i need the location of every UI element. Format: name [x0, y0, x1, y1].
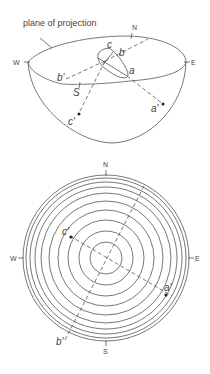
point-a-prime-marker — [162, 103, 165, 106]
point-c-prime-marker — [78, 113, 81, 116]
circle-4 — [58, 210, 154, 306]
point-c-prime-bottom-marker — [69, 235, 72, 238]
circle-6 — [41, 193, 171, 323]
circle-9 — [26, 178, 186, 338]
north-label: N — [132, 24, 137, 31]
point-b-prime-label: b' — [57, 72, 66, 83]
point-b-prime-bottom-label: b' — [56, 336, 65, 347]
west-label: W — [13, 59, 20, 66]
line-to-b-prime — [64, 61, 105, 80]
hemisphere-bowl — [28, 62, 186, 143]
east-label: E — [191, 59, 196, 66]
south-label: S — [73, 87, 80, 98]
point-a-label: a — [129, 65, 135, 76]
south-label-bottom: S — [103, 348, 108, 355]
c-a-diameter — [70, 236, 172, 296]
circle-7 — [35, 187, 177, 329]
caption-leader-line — [40, 38, 52, 48]
circle-5 — [49, 201, 163, 315]
north-tick — [131, 33, 132, 39]
cone-axis-c — [103, 52, 113, 65]
point-a-prime-bottom-marker — [164, 293, 167, 296]
circle-1 — [90, 242, 122, 274]
point-a-prime-bottom-label: a' — [164, 282, 173, 293]
point-c-label: c — [107, 39, 112, 50]
concentric-circles — [23, 175, 189, 341]
line-to-a-prime — [127, 76, 163, 104]
circle-10 — [23, 175, 189, 341]
circle-2 — [79, 231, 133, 285]
projection-diagram: plane of projection N W E S c b a b' c' … — [0, 0, 210, 374]
circle-8 — [30, 182, 182, 334]
point-c-prime-bottom-label: c' — [62, 226, 70, 237]
east-label-bottom: E — [195, 255, 200, 262]
plane-of-projection-label: plane of projection — [23, 18, 97, 28]
west-label-bottom: W — [10, 255, 17, 262]
point-a-prime-label: a' — [151, 103, 160, 114]
point-c-prime-label: c' — [68, 116, 76, 127]
hemisphere-panel: plane of projection N W E S c b a b' c' … — [13, 18, 196, 143]
north-label-bottom: N — [103, 161, 108, 168]
line-to-c-prime — [78, 61, 105, 115]
stereonet-panel: N S W E c' a' b' — [10, 161, 200, 355]
point-b-label: b — [119, 47, 125, 58]
